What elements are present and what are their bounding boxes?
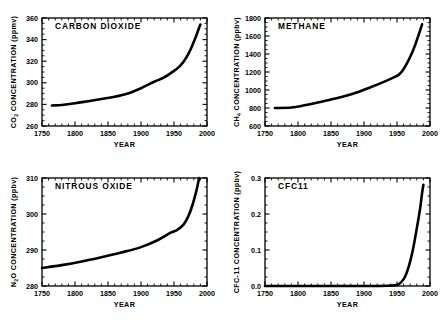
y-tick-label: 800 — [249, 104, 261, 113]
x-tick-label: 1850 — [100, 289, 116, 298]
y-tick-label: 600 — [249, 122, 261, 131]
y-tick-label: 310 — [26, 174, 38, 183]
y-tick-label: 340 — [26, 35, 38, 44]
y-tick-label: 0.3 — [251, 174, 261, 183]
chart-ch4: 1750180018501900195020006008001000120014… — [223, 0, 446, 160]
panel-cfc11: 1750180018501900195020000.00.10.20.3YEAR… — [223, 160, 446, 320]
panel-title: CFC11 — [278, 181, 309, 191]
x-tick-label: 1900 — [133, 129, 149, 138]
x-axis-title: YEAR — [114, 140, 136, 149]
x-axis-title: YEAR — [114, 300, 136, 309]
y-tick-label: 1800 — [245, 14, 261, 23]
x-tick-label: 1850 — [100, 129, 116, 138]
data-curve-ch4 — [275, 24, 422, 108]
x-tick-label: 1800 — [290, 129, 306, 138]
y-tick-label: 0.0 — [251, 282, 261, 291]
plot-frame — [265, 178, 430, 286]
y-tick-label: 1400 — [245, 50, 261, 59]
plot-frame — [42, 18, 207, 126]
data-curve-co2 — [52, 24, 201, 105]
panel-methane: 1750180018501900195020006008001000120014… — [223, 0, 446, 160]
y-tick-label: 0.1 — [251, 246, 261, 255]
y-axis-title: CO2 CONCENTRATION (ppmv) — [9, 15, 19, 128]
y-tick-label: 360 — [26, 14, 38, 23]
panel-title: NITROUS OXIDE — [55, 181, 133, 191]
y-axis-title: CFC-11 CONCENTRATION (ppbv) — [232, 170, 241, 293]
y-axis-title: N2O CONCENTRATION (ppbv) — [9, 176, 19, 287]
y-tick-label: 1200 — [245, 68, 261, 77]
y-tick-label: 280 — [26, 100, 38, 109]
panel-title: METHANE — [278, 21, 326, 31]
x-tick-label: 1950 — [166, 289, 182, 298]
y-tick-label: 0.2 — [251, 210, 261, 219]
x-tick-label: 1950 — [389, 289, 405, 298]
x-axis-title: YEAR — [337, 300, 359, 309]
y-tick-label: 260 — [26, 122, 38, 131]
y-tick-label: 290 — [26, 246, 38, 255]
x-tick-label: 1800 — [67, 129, 83, 138]
chart-n2o: 175018001850190019502000280290300310YEAR… — [0, 160, 223, 320]
panel-nitrous-oxide: 175018001850190019502000280290300310YEAR… — [0, 160, 223, 320]
plot-frame — [265, 18, 430, 126]
x-tick-label: 1900 — [133, 289, 149, 298]
y-tick-label: 320 — [26, 57, 38, 66]
x-tick-label: 1900 — [356, 129, 372, 138]
x-tick-label: 1850 — [323, 129, 339, 138]
y-tick-label: 300 — [26, 78, 38, 87]
x-tick-label: 1800 — [290, 289, 306, 298]
data-curve-n2o — [42, 178, 199, 268]
x-tick-label: 2000 — [199, 129, 215, 138]
chart-co2: 1750180018501900195020002602803003203403… — [0, 0, 223, 160]
panel-carbon-dioxide: 1750180018501900195020002602803003203403… — [0, 0, 223, 160]
y-axis-title: CH4 CONCENTRATION (ppbv) — [232, 17, 242, 127]
x-tick-label: 2000 — [199, 289, 215, 298]
panel-title: CARBON DIOXIDE — [55, 21, 141, 31]
y-tick-label: 280 — [26, 282, 38, 291]
x-tick-label: 1950 — [389, 129, 405, 138]
x-axis-title: YEAR — [337, 140, 359, 149]
plot-frame — [42, 178, 207, 286]
y-tick-label: 1600 — [245, 32, 261, 41]
x-tick-label: 1900 — [356, 289, 372, 298]
x-tick-label: 2000 — [422, 129, 438, 138]
data-curve-cfc-11 — [265, 185, 423, 286]
y-tick-label: 1000 — [245, 86, 261, 95]
y-tick-label: 300 — [26, 210, 38, 219]
greenhouse-gas-figure: 1750180018501900195020002602803003203403… — [0, 0, 446, 320]
chart-cfc-11: 1750180018501900195020000.00.10.20.3YEAR… — [223, 160, 446, 320]
x-tick-label: 1850 — [323, 289, 339, 298]
x-tick-label: 1800 — [67, 289, 83, 298]
x-tick-label: 1950 — [166, 129, 182, 138]
x-tick-label: 2000 — [422, 289, 438, 298]
